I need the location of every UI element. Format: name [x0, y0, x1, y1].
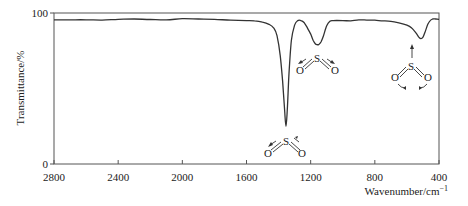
so2-asymmetric-stretch-diagram: S O O [264, 135, 306, 159]
x-axis-label: Wavenumber/cm−1 [365, 184, 448, 197]
atom-o-right: O [424, 71, 432, 83]
x-tick-label: 800 [367, 171, 384, 183]
atom-s: S [408, 60, 414, 72]
x-tick-label: 2400 [107, 171, 130, 183]
x-axis-label-exponent: −1 [439, 184, 448, 193]
x-tick-label: 2000 [171, 171, 194, 183]
so2-symmetric-stretch-diagram: S O O [296, 52, 339, 76]
spectrum-line [54, 19, 439, 127]
y-axis-label: Transmittance/% [14, 51, 26, 126]
y-tick-label-0: 0 [43, 158, 49, 170]
x-axis-ticks: 28002400200016001200800400 [43, 160, 448, 183]
arrow-icon [294, 138, 299, 142]
atom-s: S [283, 135, 289, 147]
x-tick-label: 2800 [43, 171, 66, 183]
atom-o-left: O [391, 71, 399, 83]
plot-frame [54, 13, 439, 164]
so2-bending-diagram: S O O [391, 44, 432, 90]
atom-o-right: O [331, 64, 339, 76]
x-tick-label: 400 [431, 171, 448, 183]
atom-o-left: O [264, 147, 272, 159]
x-axis-label-text: Wavenumber/cm [365, 185, 440, 197]
atom-s: S [314, 52, 320, 64]
y-tick-label-100: 100 [32, 7, 49, 19]
x-tick-label: 1200 [300, 171, 323, 183]
atom-o-left: O [296, 64, 304, 76]
ir-spectrum-chart: 100 0 28002400200016001200800400 Transmi… [0, 0, 468, 206]
x-tick-label: 1600 [236, 171, 259, 183]
